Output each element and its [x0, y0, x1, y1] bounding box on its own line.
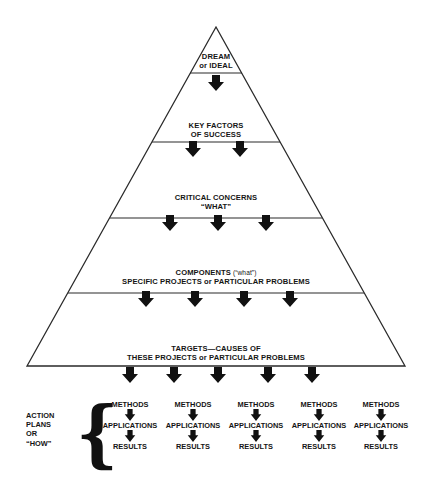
arrows-level-5	[122, 367, 320, 383]
applications-label: APPLICATIONS	[343, 421, 419, 430]
level-key-factors-label: KEY FACTORS OF SUCCESS	[166, 121, 266, 139]
down-arrow-icon	[210, 215, 226, 231]
down-arrow-icon	[208, 75, 224, 91]
level-critical-concerns-label: CRITICAL CONCERNS “WHAT”	[146, 193, 286, 211]
down-arrow-icon	[122, 367, 138, 383]
arrows-level-1	[208, 75, 224, 91]
level-dream-label: DREAM or IDEAL	[186, 52, 246, 70]
arrows-level-2	[185, 141, 248, 157]
down-arrow-icon	[260, 367, 276, 383]
results-label: RESULTS	[343, 442, 419, 451]
down-arrow-icon	[304, 367, 320, 383]
methods-label: METHODS	[343, 400, 419, 409]
down-arrow-icon	[162, 215, 178, 231]
action-column-5: METHODS APPLICATIONS RESULTS	[343, 400, 419, 451]
level-components-label: COMPONENTS (“what”) SPECIFIC PROJECTS or…	[96, 268, 336, 286]
down-arrow-icon	[185, 141, 201, 157]
down-arrow-icon	[166, 367, 182, 383]
action-plans-label: ACTION PLANS OR “HOW”	[26, 411, 54, 448]
arrows-level-3	[162, 215, 274, 231]
down-arrow-icon	[210, 367, 226, 383]
down-arrow-icon	[258, 215, 274, 231]
down-arrow-icon	[232, 141, 248, 157]
level-targets-label: TARGETS—CAUSES OF THESE PROJECTS or PART…	[96, 344, 336, 362]
